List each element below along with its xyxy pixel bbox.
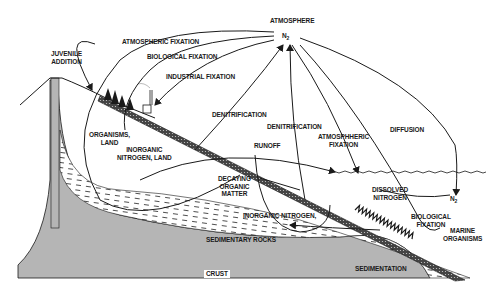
label-atmospheric-fixation-land: ATMOSPHERIC FIXATION bbox=[122, 38, 199, 46]
sea-surface bbox=[330, 171, 486, 173]
label-industrial-fixation: INDUSTRIAL FIXATION bbox=[166, 73, 235, 81]
label-atmosphere: ATMOSPHERE bbox=[270, 17, 314, 25]
label-juvenile-addition: JUVENILE ADDITION bbox=[51, 50, 82, 65]
label-crust: CRUST bbox=[204, 270, 230, 278]
nitrogen-cycle-diagram bbox=[0, 0, 503, 307]
label-inorganic-nitrogen-land: INORGANIC NITROGEN, LAND bbox=[117, 146, 172, 161]
label-sedimentation: SEDIMENTATION bbox=[355, 265, 407, 273]
label-denitrification-sea: DENITRIFICATION bbox=[267, 123, 322, 131]
label-sedimentary-rocks: SEDIMENTARY ROCKS bbox=[206, 236, 276, 244]
n2-subscript: 2 bbox=[287, 35, 290, 41]
label-atmospheric-fixation-sea: ATMOSPHHERIC FIXATION bbox=[318, 133, 369, 148]
label-biological-fixation-land: BIOLOGICAL FIXATION bbox=[147, 53, 217, 61]
label-organisms-land: ORGANISMS, LAND bbox=[89, 131, 130, 146]
label-inorganic-nitrogen: INORGANIC NITROGEN, bbox=[243, 212, 316, 220]
label-marine-organisms: MARINE ORGANISMS bbox=[443, 227, 482, 242]
label-decaying-organic-matter: DECAYING ORGANIC MATTER bbox=[218, 175, 251, 198]
label-dissolved-nitrogen: DISSOLVED NITROGEN bbox=[372, 186, 408, 201]
factory-icon bbox=[138, 84, 152, 114]
label-runoff: RUNOFF bbox=[254, 142, 280, 150]
label-biological-fixation-sea: BIOLOGICAL FIXATION bbox=[411, 213, 451, 228]
label-diffusion: DIFFUSION bbox=[390, 126, 424, 134]
label-denitrification-land: DENITRIFICATION bbox=[212, 111, 267, 119]
volcano-conduit bbox=[51, 78, 59, 228]
n2-sea-subscript: 2 bbox=[455, 198, 458, 204]
label-n2-sea: N2 bbox=[450, 195, 457, 206]
land-surface bbox=[20, 78, 155, 118]
label-n2-atmosphere: N2 bbox=[282, 32, 289, 43]
